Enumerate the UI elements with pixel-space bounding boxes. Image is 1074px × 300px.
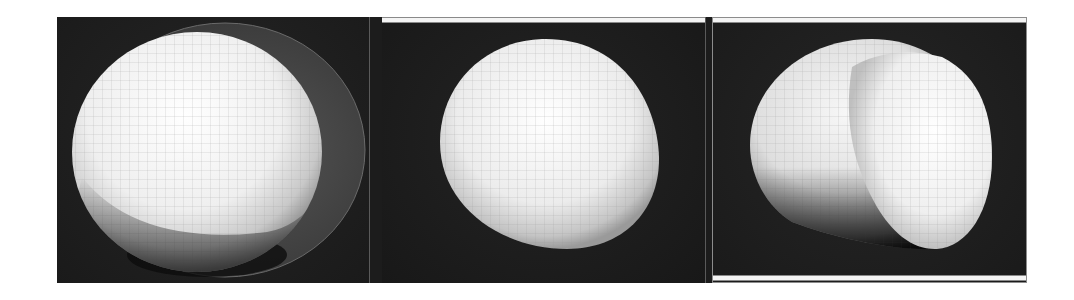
panel-2 [382, 17, 705, 283]
sphere-render-1 [57, 17, 369, 283]
bottom-bar [712, 275, 1027, 281]
top-bar [382, 17, 705, 23]
sphere-render-2 [382, 17, 705, 283]
panel-1 [57, 17, 369, 283]
panel-divider [369, 17, 370, 283]
top-bar [712, 17, 1027, 23]
panel-3 [712, 17, 1027, 283]
panel-divider [705, 17, 706, 283]
figure-strip [57, 17, 1027, 283]
sphere-render-3 [712, 17, 1027, 283]
